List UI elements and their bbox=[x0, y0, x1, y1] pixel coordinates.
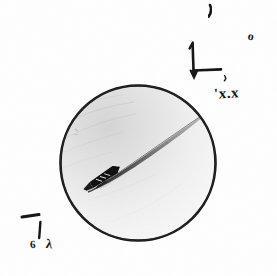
label-six: 6 bbox=[30, 239, 36, 250]
label-x-x: 'x.x bbox=[214, 85, 240, 101]
label-lambda: λ bbox=[45, 237, 53, 251]
sketch-sheet: 'x.x o 6 λ bbox=[0, 0, 277, 276]
sketch-canvas bbox=[0, 0, 277, 276]
vertical-stroke-icon bbox=[39, 222, 40, 238]
